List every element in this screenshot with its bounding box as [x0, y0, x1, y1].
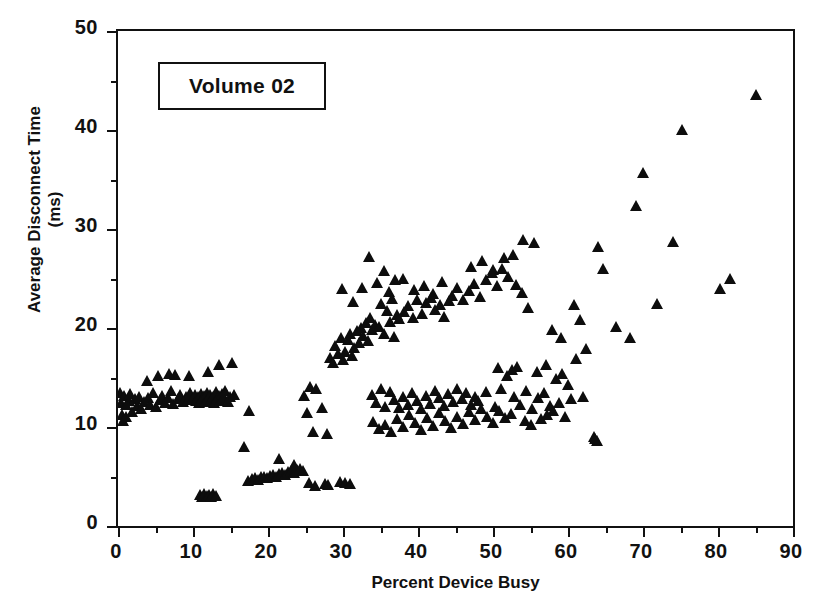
data-point-marker: [495, 383, 507, 394]
data-point-marker: [568, 299, 580, 310]
data-point-marker: [630, 200, 642, 211]
data-point-marker: [336, 283, 348, 294]
data-point-marker: [517, 234, 529, 245]
data-point-marker: [520, 385, 532, 396]
data-point-marker: [624, 332, 636, 343]
data-point-marker: [562, 379, 574, 390]
data-point-marker: [516, 287, 528, 298]
data-point-marker: [487, 417, 499, 428]
data-point-marker: [347, 296, 359, 307]
data-point-marker: [541, 409, 553, 420]
data-point-marker: [356, 282, 368, 293]
data-point-marker: [388, 331, 400, 342]
y-axis-tick-minor: [111, 279, 118, 281]
x-axis-tick-minor: [156, 526, 158, 533]
data-point-marker: [676, 124, 688, 135]
data-point-marker: [322, 479, 334, 490]
data-point-marker: [362, 335, 374, 346]
data-point-marker: [415, 424, 427, 435]
data-point-marker: [307, 426, 319, 437]
data-point-marker: [273, 453, 285, 464]
data-point-marker: [597, 263, 609, 274]
data-point-marker: [480, 386, 492, 397]
data-point-marker: [416, 308, 428, 319]
data-point-marker: [321, 428, 333, 439]
x-axis-tick-minor: [381, 526, 383, 533]
x-axis-tick-major: [343, 526, 345, 537]
data-point-marker: [226, 357, 238, 368]
x-axis-tick-minor: [456, 526, 458, 533]
y-axis-tick-minor: [111, 81, 118, 83]
data-point-marker: [565, 393, 577, 404]
data-point-marker: [540, 359, 552, 370]
data-point-marker: [371, 277, 383, 288]
x-axis-tick-label: 20: [236, 540, 296, 563]
x-axis-title: Percent Device Busy: [116, 573, 795, 593]
x-axis-tick-major: [493, 526, 495, 537]
x-axis-tick-label: 30: [311, 540, 371, 563]
y-axis-tick-major: [107, 31, 118, 33]
annotation-label: Volume 02: [189, 74, 295, 98]
data-point-marker: [310, 383, 322, 394]
x-axis-tick-major: [193, 526, 195, 537]
x-axis-tick-label: 80: [686, 540, 746, 563]
x-axis-tick-label: 50: [461, 540, 521, 563]
data-point-marker: [651, 298, 663, 309]
x-axis-tick-label: 90: [761, 540, 821, 563]
data-point-marker: [238, 441, 250, 452]
x-axis-tick-label: 40: [386, 540, 446, 563]
data-point-marker: [546, 324, 558, 335]
data-point-marker: [667, 236, 679, 247]
x-axis-tick-major: [718, 526, 720, 537]
data-point-marker: [724, 273, 736, 284]
data-point-marker: [363, 251, 375, 262]
y-axis-tick-minor: [111, 180, 118, 182]
y-axis-tick-label: 50: [38, 16, 98, 39]
data-point-marker: [538, 387, 550, 398]
data-point-marker: [559, 411, 571, 422]
x-axis-tick-label: 10: [161, 540, 221, 563]
data-point-marker: [574, 314, 586, 325]
data-point-marker: [378, 265, 390, 276]
x-axis-tick-minor: [681, 526, 683, 533]
data-point-marker: [592, 241, 604, 252]
y-axis-tick-label: 10: [38, 412, 98, 435]
y-axis-tick-label: 0: [38, 511, 98, 534]
x-axis-tick-minor: [231, 526, 233, 533]
data-point-marker: [507, 249, 519, 260]
data-point-marker: [397, 421, 409, 432]
data-point-marker: [445, 422, 457, 433]
data-point-marker: [519, 415, 531, 426]
data-point-marker: [511, 361, 523, 372]
x-axis-tick-major: [793, 526, 795, 537]
data-point-marker: [577, 391, 589, 402]
data-point-marker: [344, 478, 356, 489]
scatter-plot-figure: Average Disconnect Time (ms) Percent Dev…: [0, 0, 824, 607]
x-axis-tick-minor: [531, 526, 533, 533]
data-point-marker: [637, 167, 649, 178]
x-axis-tick-major: [568, 526, 570, 537]
data-point-marker: [522, 302, 534, 313]
data-point-marker: [528, 237, 540, 248]
data-point-marker: [492, 362, 504, 373]
y-axis-tick-major: [107, 229, 118, 231]
data-point-marker: [316, 402, 328, 413]
x-axis-tick-major: [268, 526, 270, 537]
data-point-marker: [152, 370, 164, 381]
data-point-marker: [301, 407, 313, 418]
data-point-marker: [491, 280, 503, 291]
x-axis-tick-major: [418, 526, 420, 537]
x-axis-tick-label: 60: [536, 540, 596, 563]
data-point-marker: [465, 261, 477, 272]
data-point-marker: [468, 278, 480, 289]
data-point-marker: [213, 359, 225, 370]
data-point-marker: [386, 293, 398, 304]
data-point-marker: [750, 89, 762, 100]
data-point-marker: [243, 405, 255, 416]
y-axis-tick-minor: [111, 378, 118, 380]
data-point-marker: [580, 343, 592, 354]
data-point-marker: [610, 321, 622, 332]
annotation-box: Volume 02: [158, 62, 326, 110]
data-point-marker: [397, 273, 409, 284]
x-axis-tick-label: 0: [86, 540, 146, 563]
